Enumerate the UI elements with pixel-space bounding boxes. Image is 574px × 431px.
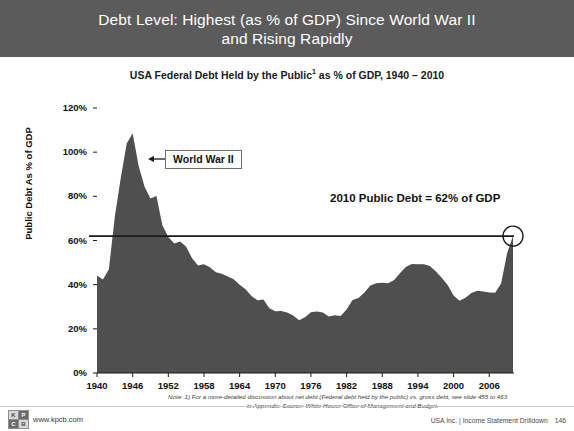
debt-2010-annotation-label: 2010 Public Debt = 62% of GDP xyxy=(330,192,500,204)
kpcb-logo-letter-p: P xyxy=(19,411,28,419)
wwii-annotation-label: World War II xyxy=(165,150,242,169)
kpcb-logo-letter-k: K xyxy=(9,411,18,419)
footnote-line-1: Note: 1) For a more-detailed discussion … xyxy=(168,393,507,400)
footer-divider xyxy=(0,406,574,407)
area-chart-svg xyxy=(0,0,574,431)
slide-canvas: Debt Level: Highest (as % of GDP) Since … xyxy=(0,0,574,431)
footer-source-label: USA Inc. | Income Statement Drilldown xyxy=(431,417,548,424)
kpcb-logo-letter-b: B xyxy=(19,420,28,428)
wwii-arrow-icon xyxy=(148,152,166,166)
kpcb-branding[interactable]: K P C B www.kpcb.com xyxy=(8,410,83,429)
page-number: 146 xyxy=(555,417,566,424)
debt-area-series xyxy=(97,133,513,373)
footer-source-line: USA Inc. | Income Statement Drilldown146 xyxy=(431,417,566,424)
kpcb-logo-icon: K P C B xyxy=(8,410,29,429)
chart-plot-area: Public Debt As % of GDP 0%20%40%60%80%10… xyxy=(0,0,574,431)
kpcb-logo-letter-c: C xyxy=(9,420,18,428)
kpcb-url-link[interactable]: www.kpcb.com xyxy=(33,415,83,424)
